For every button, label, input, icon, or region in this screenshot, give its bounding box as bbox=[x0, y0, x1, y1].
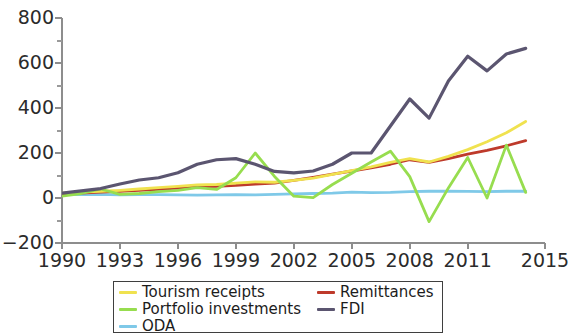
y-tick-major bbox=[55, 62, 62, 64]
series-line-remittances bbox=[62, 141, 526, 194]
y-tick-label: 400 bbox=[0, 98, 54, 117]
series-lines bbox=[62, 18, 545, 243]
legend-item[interactable]: FDI bbox=[317, 301, 434, 317]
x-tick-label: 2002 bbox=[270, 249, 318, 271]
x-tick-label: 1990 bbox=[38, 249, 86, 271]
legend-item[interactable]: ODA bbox=[119, 318, 301, 334]
x-tick-label: 2015 bbox=[521, 249, 569, 271]
legend-swatch-icon bbox=[119, 308, 137, 311]
legend-item[interactable]: Tourism receipts bbox=[119, 284, 301, 300]
legend-swatch-icon bbox=[317, 308, 335, 311]
y-axis-labels: 8006004002000−200 bbox=[0, 0, 54, 260]
legend-item[interactable]: Remittances bbox=[317, 284, 434, 300]
x-tick-label: 2011 bbox=[444, 249, 492, 271]
legend-column-right: RemittancesFDI bbox=[317, 284, 434, 318]
legend-swatch-icon bbox=[317, 291, 335, 294]
y-tick-major bbox=[55, 107, 62, 109]
x-tick-label: 1993 bbox=[96, 249, 144, 271]
series-line-fdi bbox=[62, 48, 526, 193]
legend-label: Tourism receipts bbox=[142, 284, 265, 300]
x-tick-label: 1999 bbox=[212, 249, 260, 271]
y-tick-major bbox=[55, 17, 62, 19]
plot-area bbox=[62, 18, 545, 243]
legend-label: FDI bbox=[340, 301, 365, 317]
y-tick-label: 200 bbox=[0, 143, 54, 162]
y-tick-major bbox=[55, 152, 62, 154]
x-tick-label: 2008 bbox=[386, 249, 434, 271]
y-tick-label: 800 bbox=[0, 8, 54, 27]
y-tick-label: 0 bbox=[0, 188, 54, 207]
legend-item[interactable]: Portfolio investments bbox=[119, 301, 301, 317]
legend-label: Remittances bbox=[340, 284, 434, 300]
y-tick-major bbox=[55, 197, 62, 199]
legend-column-left: Tourism receiptsPortfolio investmentsODA bbox=[119, 284, 301, 334]
legend-swatch-icon bbox=[119, 325, 137, 328]
y-tick-label: 600 bbox=[0, 53, 54, 72]
legend-label: ODA bbox=[142, 318, 175, 334]
legend-swatch-icon bbox=[119, 291, 137, 294]
x-tick-label: 1996 bbox=[154, 249, 202, 271]
legend-label: Portfolio investments bbox=[142, 301, 301, 317]
chart-legend: Tourism receiptsPortfolio investmentsODA… bbox=[113, 281, 443, 333]
x-tick-label: 2005 bbox=[328, 249, 376, 271]
